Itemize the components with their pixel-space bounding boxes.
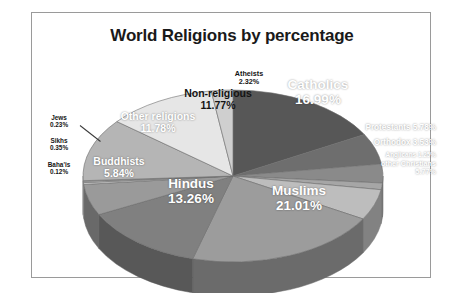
chart-title: World Religions by percentage (32, 26, 432, 46)
pie-top-faces (83, 90, 383, 262)
pie-svg (74, 68, 392, 293)
pie-chart (74, 68, 392, 293)
slice-label-orthodox-value: 3.53% (413, 138, 436, 147)
slice-label-protestants-value: 5.78% (413, 123, 436, 132)
slice-label-anglicans-value: 1.25% (418, 151, 436, 158)
chart-frame: World Religions by percentage Catholics … (31, 12, 431, 278)
